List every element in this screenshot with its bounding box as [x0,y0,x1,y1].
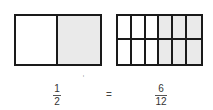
empty-cell [118,40,132,64]
numerator: 1 [54,84,60,94]
numerator: 6 [158,84,164,94]
shaded-cell [187,40,201,64]
empty-cell [118,16,132,40]
empty-cell [16,16,58,64]
empty-cell [146,40,160,64]
shaded-cell [58,16,100,64]
shaded-cell [173,40,187,64]
denominator: 12 [155,97,166,107]
shaded-cell [187,16,201,40]
empty-cell [132,40,146,64]
empty-cell [146,16,160,40]
half-rectangle [14,14,102,66]
empty-cell [132,16,146,40]
twelfths-grid [116,14,203,66]
fraction-one-half: 1 2 [53,84,61,107]
shaded-cell [159,40,173,64]
stray-mark: ᶦ [83,74,84,80]
shaded-cell [159,16,173,40]
denominator: 2 [54,97,60,107]
shaded-cell [173,16,187,40]
fraction-six-twelfths: 6 12 [155,84,167,107]
equals-sign: = [106,89,112,100]
